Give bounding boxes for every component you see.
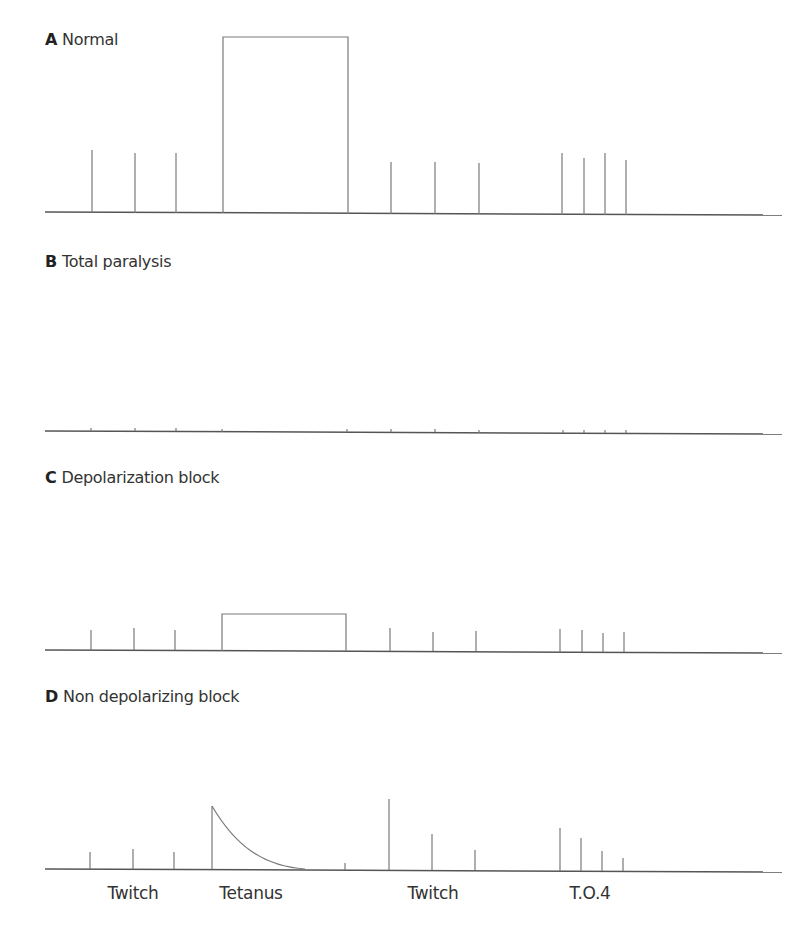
panel-b-label: BTotal paralysis — [45, 252, 171, 272]
tetanus-box — [223, 37, 348, 214]
panel-a-title: Normal — [62, 30, 118, 49]
panel-d-trace — [45, 799, 782, 872]
panel-b-letter: B — [45, 252, 57, 271]
panel-b-title: Total paralysis — [62, 252, 171, 271]
x-label-twitch-2: Twitch — [407, 883, 458, 903]
tetanus-box — [222, 614, 346, 651]
panel-c-trace — [45, 614, 782, 653]
panel-d-letter: D — [45, 687, 58, 706]
x-label-twitch-1: Twitch — [107, 883, 158, 903]
panel-a-letter: A — [45, 30, 57, 49]
panel-c-label: CDepolarization block — [45, 468, 219, 488]
x-label-tof: T.O.4 — [569, 883, 610, 903]
panel-b-trace — [45, 428, 782, 434]
panel-a-trace — [45, 37, 782, 215]
tetanic-fade-curve — [212, 806, 305, 869]
panel-d-title: Non depolarizing block — [63, 687, 239, 706]
x-label-tetanus: Tetanus — [219, 883, 282, 903]
panel-c-letter: C — [45, 468, 56, 487]
panel-d-label: DNon depolarizing block — [45, 687, 239, 707]
panel-a-label: ANormal — [45, 30, 118, 50]
panel-c-title: Depolarization block — [61, 468, 219, 487]
